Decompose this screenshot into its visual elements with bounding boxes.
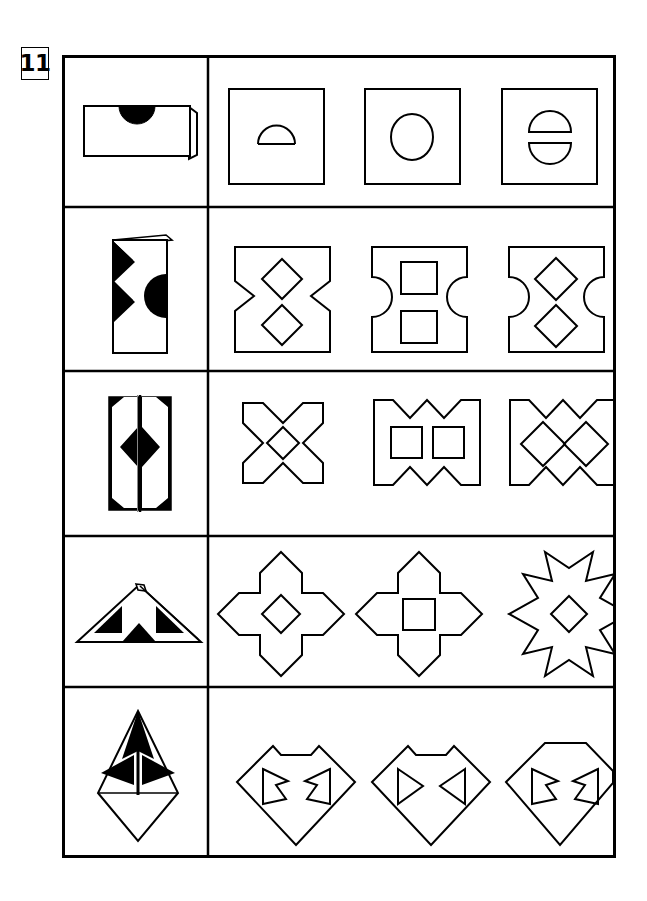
row-1 [84, 89, 597, 184]
row-3 [109, 395, 616, 512]
row-4-option-1[interactable] [218, 552, 344, 676]
row-1-option-2[interactable] [365, 89, 460, 184]
row-4-option-2[interactable] [356, 552, 482, 676]
row-3-prompt [109, 395, 171, 512]
diamond-hole-center [267, 427, 299, 459]
row-2 [113, 235, 604, 353]
upper-half-disc-hole [529, 111, 571, 132]
half-disc-hole [258, 126, 295, 144]
row-4-prompt [77, 584, 201, 642]
outline [356, 552, 482, 676]
row-3-option-2[interactable] [374, 400, 480, 485]
row-1-option-3[interactable] [502, 89, 597, 184]
diamond-hole-right [564, 422, 608, 466]
outline [506, 743, 613, 845]
black-half-disc-cut [144, 274, 188, 318]
row-5-option-3[interactable] [506, 743, 613, 845]
diamond-hole-center [262, 595, 300, 633]
puzzle-board [62, 55, 616, 858]
row-2-prompt [113, 235, 188, 353]
worksheet-page: 11 [0, 0, 647, 901]
outline [372, 746, 490, 845]
square-hole-top [401, 262, 437, 294]
diamond-hole-bottom [535, 305, 577, 347]
outline [509, 552, 616, 676]
row-2-option-3[interactable] [509, 247, 604, 352]
row-1-option-1[interactable] [229, 89, 324, 184]
circle-hole [391, 114, 433, 160]
row-3-option-1[interactable] [243, 403, 323, 483]
square-hole-bottom [401, 311, 437, 343]
diamond-hole-bottom [262, 305, 302, 345]
row-2-option-1[interactable] [235, 247, 330, 352]
row-5-option-2[interactable] [372, 746, 490, 845]
row-2-option-2[interactable] [372, 247, 467, 352]
row-5-prompt [98, 711, 178, 841]
square-hole-center [403, 599, 435, 630]
triangle-hole-right [440, 769, 465, 804]
arrow-hole-right [573, 769, 598, 804]
outline [243, 403, 323, 483]
row-1-prompt [84, 106, 197, 159]
row-5 [98, 711, 613, 845]
arrow-hole-right [305, 769, 330, 804]
arrow-hole-left [532, 769, 558, 804]
question-number-badge: 11 [21, 47, 49, 80]
square-hole-left [391, 427, 422, 458]
square-hole-right [433, 427, 464, 458]
outline [218, 552, 344, 676]
puzzle-grid [62, 55, 616, 858]
row-5-option-1[interactable] [237, 746, 355, 845]
row-3-option-3[interactable] [510, 400, 616, 485]
arrow-hole-left [263, 769, 288, 804]
diamond-hole-top [262, 259, 302, 299]
row-4-option-3[interactable] [509, 552, 616, 676]
diamond-hole-top [535, 258, 577, 300]
lower-half-disc-hole [529, 143, 571, 164]
diamond-hole-left [521, 422, 565, 466]
diamond-hole-center [551, 596, 587, 632]
triangle-hole-left [398, 769, 423, 804]
outline [237, 746, 355, 845]
row-4 [77, 552, 616, 676]
